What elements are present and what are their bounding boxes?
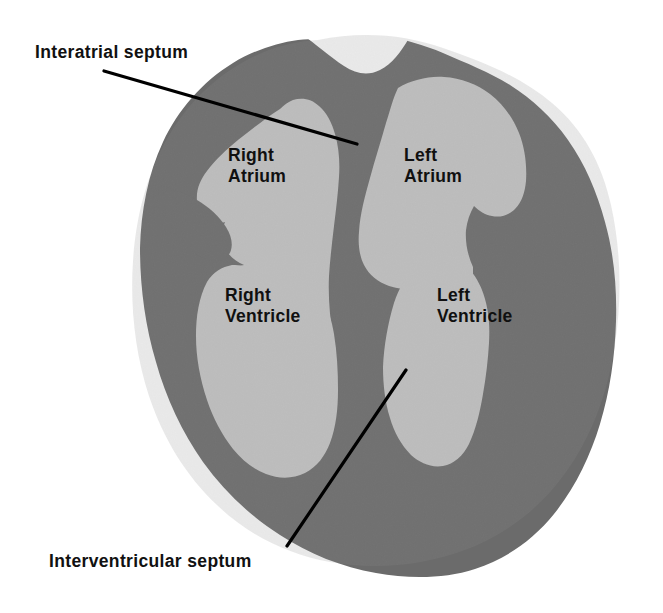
label-left-ventricle-line1: Left xyxy=(437,285,513,306)
label-right-ventricle: Right Ventricle xyxy=(225,285,301,328)
label-right-atrium: Right Atrium xyxy=(228,145,286,188)
label-interventricular-septum: Interventricular septum xyxy=(49,552,252,570)
label-left-ventricle: Left Ventricle xyxy=(437,285,513,328)
label-interatrial-septum: Interatrial septum xyxy=(35,43,188,61)
label-left-ventricle-line2: Ventricle xyxy=(437,306,513,327)
label-right-atrium-line2: Atrium xyxy=(228,166,286,187)
label-left-atrium: Left Atrium xyxy=(404,145,462,188)
label-left-atrium-line1: Left xyxy=(404,145,462,166)
label-right-ventricle-line1: Right xyxy=(225,285,301,306)
heart-cross-section-illustration xyxy=(0,0,663,613)
heart-diagram-figure: Interatrial septum Interventricular sept… xyxy=(0,0,663,613)
label-left-atrium-line2: Atrium xyxy=(404,166,462,187)
label-right-ventricle-line2: Ventricle xyxy=(225,306,301,327)
label-right-atrium-line1: Right xyxy=(228,145,286,166)
